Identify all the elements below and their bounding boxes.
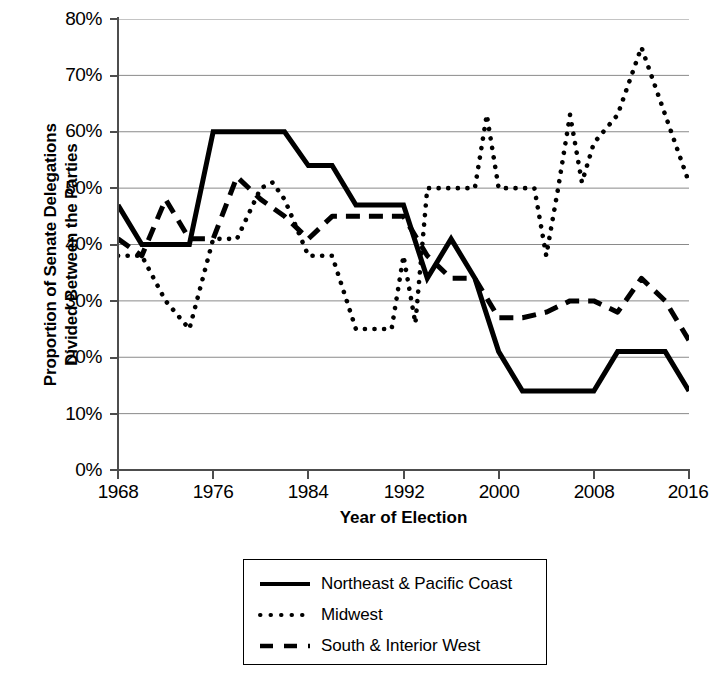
dashed-line-swatch-icon	[258, 638, 312, 654]
x-tick-label-1992: 1992	[359, 481, 449, 503]
x-axis-title: Year of Election	[118, 508, 689, 528]
x-tick-label-1968: 1968	[73, 481, 163, 503]
y-tick-label-20: 20%	[32, 346, 102, 368]
y-tick-label-60: 60%	[32, 120, 102, 142]
plot-area	[118, 19, 689, 470]
x-tick-mark-2000	[498, 471, 500, 479]
x-tick-label-2000: 2000	[454, 481, 544, 503]
x-tick-label-2016: 2016	[643, 481, 727, 503]
y-tick-label-50: 50%	[32, 177, 102, 199]
x-tick-label-1976: 1976	[168, 481, 258, 503]
legend-item-northeast-pacific-coast: Northeast & Pacific Coast	[258, 568, 546, 599]
y-tick-label-80: 80%	[32, 8, 102, 30]
x-tick-mark-2016	[688, 471, 690, 479]
plot-canvas	[118, 19, 689, 470]
legend-label-midwest: Midwest	[321, 605, 383, 625]
y-tick-label-70: 70%	[32, 64, 102, 86]
chart-legend: Northeast & Pacific Coast Midwest South …	[243, 559, 547, 665]
x-tick-mark-1968	[117, 471, 119, 479]
x-tick-mark-1976	[212, 471, 214, 479]
solid-line-swatch-icon	[258, 576, 312, 592]
y-tick-label-10: 10%	[32, 403, 102, 425]
y-tick-label-30: 30%	[32, 290, 102, 312]
x-tick-mark-2008	[593, 471, 595, 479]
y-tick-label-0: 0%	[32, 459, 102, 481]
y-tick-label-40: 40%	[32, 233, 102, 255]
legend-item-south-interior-west: South & Interior West	[258, 630, 546, 661]
chart-figure: Proportion of Senate Delegations Divided…	[0, 0, 727, 678]
dotted-line-swatch-icon	[258, 607, 312, 623]
x-tick-mark-1992	[403, 471, 405, 479]
legend-label-northeast-pacific-coast: Northeast & Pacific Coast	[321, 574, 512, 594]
legend-label-south-interior-west: South & Interior West	[321, 636, 480, 656]
x-tick-label-1984: 1984	[263, 481, 353, 503]
x-tick-mark-1984	[307, 471, 309, 479]
legend-item-midwest: Midwest	[258, 599, 546, 630]
y-axis-line	[117, 17, 119, 472]
x-tick-label-2008: 2008	[549, 481, 639, 503]
